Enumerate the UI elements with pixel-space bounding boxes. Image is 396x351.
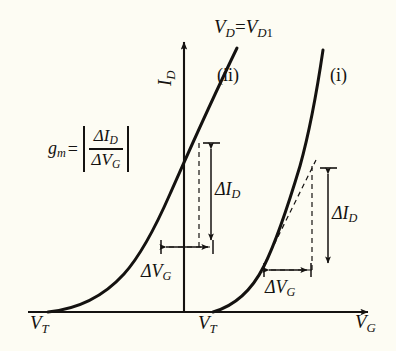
annotation-delta-vg-right: ΔVG — [265, 278, 295, 299]
curve-label-i: (i) — [330, 66, 347, 84]
formula-numerator: ΔID — [91, 127, 121, 149]
formula-fraction: ΔID ΔVG — [89, 127, 124, 172]
transconductance-formula: gm = ΔID ΔVG — [48, 126, 133, 172]
x-tick-label-vt-right: VT — [198, 313, 217, 336]
figure-svg — [0, 0, 396, 351]
x-axis-label: VG — [355, 312, 376, 335]
plot-title: VD=VD1 — [214, 17, 273, 40]
annotation-delta-id-right: ΔID — [332, 204, 357, 225]
formula-lhs: gm — [48, 139, 66, 160]
x-tick-label-vt-left: VT — [30, 313, 49, 336]
curve-label-ii: (ii) — [217, 66, 239, 84]
y-axis-label: ID — [155, 70, 178, 86]
abs-bar-right — [127, 126, 129, 172]
formula-equals: = — [68, 140, 78, 158]
abs-bar-left — [83, 126, 85, 172]
annotation-delta-id-left: ΔID — [215, 180, 240, 201]
figure-canvas: VD=VD1 ID VG VT VT (ii) (i) ΔID ΔVG ΔID … — [0, 0, 396, 351]
annotation-delta-vg-left: ΔVG — [141, 262, 171, 283]
formula-denominator: ΔVG — [89, 150, 124, 172]
